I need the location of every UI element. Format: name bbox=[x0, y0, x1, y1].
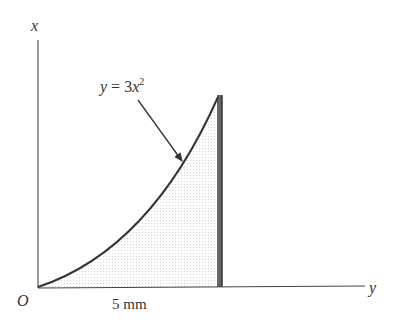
shaded-region bbox=[38, 97, 222, 287]
origin-label: O bbox=[17, 292, 29, 309]
equation-var: x bbox=[131, 78, 139, 95]
pointer-arrow bbox=[138, 100, 182, 161]
equation-exponent: 2 bbox=[139, 76, 144, 87]
horizontal-axis-label: y bbox=[367, 279, 377, 297]
diagram-canvas: x y O y = 3x2 5 mm bbox=[0, 0, 399, 331]
equation-eq: = 3 bbox=[107, 78, 132, 95]
curve-equation-label: y = 3x2 bbox=[98, 76, 144, 96]
vertical-axis-label: x bbox=[30, 17, 38, 34]
dimension-label: 5 mm bbox=[112, 296, 147, 312]
